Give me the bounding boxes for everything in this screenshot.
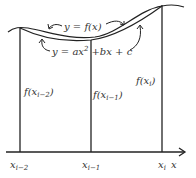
pointer-arrow-icon xyxy=(42,40,50,51)
label-f-x-i: f(xi) xyxy=(135,75,156,88)
tick-x-i-2: xi−2 xyxy=(10,159,29,172)
label-f-x: y = f(x) xyxy=(63,21,102,32)
axis-label-x: x xyxy=(171,159,177,170)
tick-x-i: xi xyxy=(158,159,166,172)
simpson-rule-diagram: y = f(x) y = ax2+bx + c f(xi−2) f(xi−1) … xyxy=(0,0,196,178)
tick-x-i-1: xi−1 xyxy=(82,159,100,172)
label-f-x-i-2: f(xi−2) xyxy=(23,86,54,99)
label-f-x-i-1: f(xi−1) xyxy=(92,89,123,102)
label-parabola: y = ax2+bx + c xyxy=(51,45,133,57)
